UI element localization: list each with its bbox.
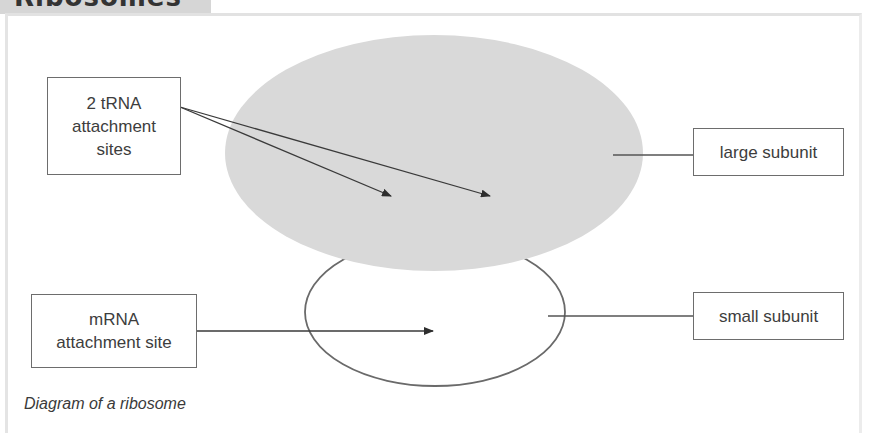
trna-label-box: 2 tRNA attachment sites xyxy=(47,77,181,175)
trna-label-line2: attachment xyxy=(72,115,156,138)
small-subunit-label-box: small subunit xyxy=(693,292,844,340)
mrna-label-box: mRNA attachment site xyxy=(31,294,197,368)
trna-label-line1: 2 tRNA xyxy=(72,92,156,115)
large-subunit-label: large subunit xyxy=(720,141,817,164)
diagram-caption: Diagram of a ribosome xyxy=(24,395,186,413)
trna-label-line3: sites xyxy=(72,138,156,161)
mrna-label-line1: mRNA xyxy=(56,308,171,331)
small-subunit-label: small subunit xyxy=(719,305,818,328)
large-subunit-label-box: large subunit xyxy=(693,128,844,176)
mrna-label-line2: attachment site xyxy=(56,331,171,354)
